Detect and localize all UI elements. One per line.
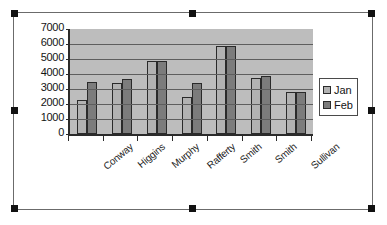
- y-tick-label: 1000: [20, 112, 64, 123]
- bar-feb[interactable]: [87, 82, 97, 134]
- legend-item-feb[interactable]: Feb: [323, 97, 353, 112]
- bar-jan[interactable]: [251, 78, 261, 134]
- y-tick-mark: [66, 29, 70, 30]
- x-axis-label: Smith: [238, 141, 264, 165]
- x-axis-label: Higgins: [135, 141, 167, 170]
- y-tick-mark: [66, 59, 70, 60]
- legend-swatch-icon: [323, 86, 331, 94]
- legend-swatch-icon: [323, 101, 331, 109]
- gridline: [70, 59, 313, 60]
- bar-jan[interactable]: [182, 97, 192, 134]
- y-tick-mark: [66, 44, 70, 45]
- legend-label: Feb: [334, 99, 353, 111]
- selection-handle-middle-left[interactable]: [11, 107, 18, 114]
- x-axis-label: Sullivan: [309, 141, 342, 171]
- y-tick-label: 6000: [20, 37, 64, 48]
- chart-object[interactable]: 70006000500040003000200010000 ConwayHigg…: [13, 12, 373, 210]
- y-axis: 70006000500040003000200010000: [20, 27, 64, 132]
- selection-handle-bottom-left[interactable]: [11, 205, 18, 212]
- x-axis-label: Conway: [101, 141, 135, 172]
- chart-plot-container[interactable]: 70006000500040003000200010000 ConwayHigg…: [14, 13, 372, 209]
- legend-item-jan[interactable]: Jan: [323, 82, 353, 97]
- bar-feb[interactable]: [122, 79, 132, 135]
- bar-jan[interactable]: [112, 83, 122, 134]
- selection-handle-bottom-center[interactable]: [189, 205, 196, 212]
- x-axis-label: Rafferty: [205, 141, 238, 171]
- bar-feb[interactable]: [157, 61, 167, 135]
- y-tick-label: 0: [20, 127, 64, 138]
- x-axis-category-labels: ConwayHigginsMurphyRaffertySmithSmithSul…: [68, 141, 313, 201]
- legend-label: Jan: [334, 84, 352, 96]
- y-tick-label: 2000: [20, 97, 64, 108]
- y-tick-mark: [66, 89, 70, 90]
- bar-feb[interactable]: [192, 83, 202, 134]
- x-axis-label: Murphy: [170, 141, 202, 170]
- selection-handle-bottom-right[interactable]: [368, 205, 375, 212]
- bar-feb[interactable]: [261, 76, 271, 134]
- gridline: [70, 104, 313, 105]
- y-tick-mark: [66, 134, 70, 135]
- gridline: [70, 89, 313, 90]
- bar-feb[interactable]: [296, 92, 306, 134]
- chart-legend[interactable]: JanFeb: [319, 78, 358, 116]
- gridline: [70, 74, 313, 75]
- plot-area: [68, 29, 313, 136]
- y-tick-label: 4000: [20, 67, 64, 78]
- selection-handle-top-center[interactable]: [189, 10, 196, 17]
- y-tick-mark: [66, 74, 70, 75]
- y-tick-label: 7000: [20, 22, 64, 33]
- y-tick-label: 3000: [20, 82, 64, 93]
- gridline: [70, 119, 313, 120]
- selection-handle-top-right[interactable]: [368, 10, 375, 17]
- bar-jan[interactable]: [147, 61, 157, 135]
- selection-handle-middle-right[interactable]: [368, 107, 375, 114]
- x-axis-label: Smith: [272, 141, 298, 165]
- gridline: [70, 44, 313, 45]
- selection-handle-top-left[interactable]: [11, 10, 18, 17]
- y-tick-label: 5000: [20, 52, 64, 63]
- y-tick-mark: [66, 104, 70, 105]
- bar-jan[interactable]: [286, 92, 296, 134]
- y-tick-mark: [66, 119, 70, 120]
